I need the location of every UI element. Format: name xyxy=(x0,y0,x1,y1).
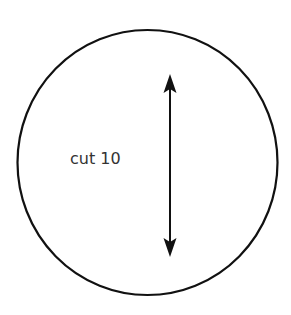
cut-diagram: cut 10 xyxy=(0,0,291,315)
circle-outline xyxy=(18,30,278,295)
double-arrow-icon xyxy=(164,74,177,257)
cut-label: cut 10 xyxy=(70,149,121,168)
